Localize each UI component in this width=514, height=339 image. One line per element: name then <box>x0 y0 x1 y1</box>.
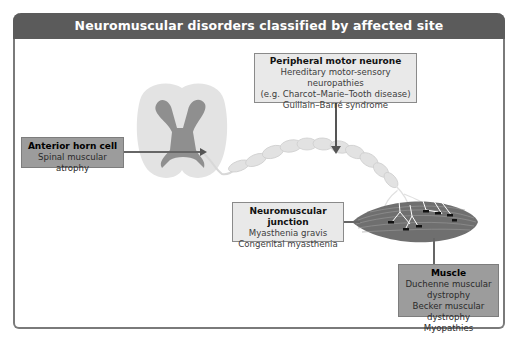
muscle-line: Duchenne muscular dystrophy <box>399 279 498 301</box>
anterior-horn-line: Spinal muscular atrophy <box>22 152 123 174</box>
nmj-title: Neuromuscular junction <box>233 206 343 228</box>
peripheral-motor-neurone-box: Peripheral motor neurone Hereditary moto… <box>254 53 417 103</box>
peripheral-title: Peripheral motor neurone <box>255 56 416 67</box>
peripheral-line: (e.g. Charcot–Marie–Tooth disease) <box>255 89 416 100</box>
neuromuscular-junction-box: Neuromuscular junction Myasthenia gravis… <box>232 202 344 242</box>
muscle-line: Myopathies <box>399 323 498 334</box>
nmj-line: Myasthenia gravis <box>233 228 343 239</box>
nmj-line: Congenital myasthenia <box>233 239 343 250</box>
muscle-box: Muscle Duchenne muscular dystrophy Becke… <box>398 264 499 317</box>
peripheral-line: Hereditary motor-sensory neuropathies <box>255 67 416 89</box>
peripheral-line: Guillain–Barré syndrome <box>255 100 416 111</box>
muscle-icon <box>352 190 478 242</box>
anterior-horn-cell-box: Anterior horn cell Spinal muscular atrop… <box>21 137 124 168</box>
muscle-title: Muscle <box>399 268 498 279</box>
anterior-horn-title: Anterior horn cell <box>22 141 123 152</box>
muscle-line: Becker muscular dystrophy <box>399 301 498 323</box>
